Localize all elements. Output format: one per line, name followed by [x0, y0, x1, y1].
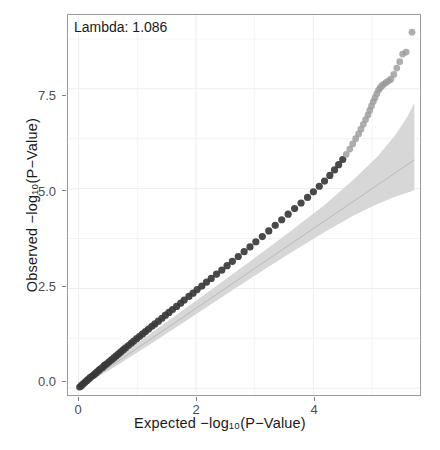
y-tick-mark-7-5 [62, 95, 66, 96]
y-tick-mark-2-5 [62, 286, 66, 287]
y-axis-title-wrapper: Observed −log₁₀(P−Value) [23, 5, 41, 405]
y-axis-title: Observed −log₁₀(P−Value) [24, 118, 40, 292]
plot-canvas [68, 15, 421, 396]
y-tick-mark-0-0 [62, 381, 66, 382]
x-axis-title: Expected −log₁₀(P−Value) [0, 415, 440, 431]
x-tick-mark-2 [196, 397, 197, 401]
reference-line [79, 160, 415, 388]
lambda-annotation: Lambda: 1.086 [74, 19, 167, 35]
x-tick-mark-4 [314, 397, 315, 401]
qq-plot-figure: 7.5 5.0 2.5 0.0 0 2 4 Expected −log₁₀(P−… [0, 0, 440, 450]
x-tick-mark-0 [78, 397, 79, 401]
y-tick-mark-5-0 [62, 190, 66, 191]
plot-panel: Lambda: 1.086 [67, 14, 421, 396]
